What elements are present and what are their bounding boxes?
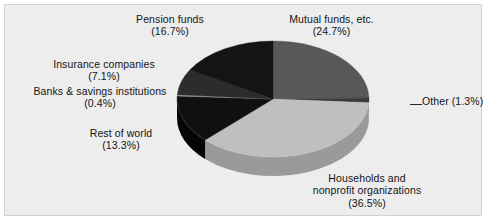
pie-slice-mutual-funds[interactable] — [273, 41, 369, 99]
pie-chart: Pension funds (16.7%) Mutual funds, etc.… — [5, 5, 481, 215]
slice-label-mutual-funds: Mutual funds, etc. (24.7%) — [259, 13, 404, 38]
chart-panel: Pension funds (16.7%) Mutual funds, etc.… — [4, 4, 482, 216]
slice-label-pension-funds: Pension funds (16.7%) — [105, 13, 235, 38]
slice-label-banks-savings: Banks & savings institutions (0.4%) — [7, 85, 193, 110]
slice-label-insurance-companies: Insurance companies (7.1%) — [19, 58, 189, 83]
leader-line-other — [410, 104, 422, 105]
slice-label-households-nonprofit: Households and nonprofit organizations (… — [287, 172, 447, 209]
slice-label-rest-of-world: Rest of world (13.3%) — [53, 127, 189, 152]
slice-label-other: Other (1.3%) — [422, 95, 488, 107]
